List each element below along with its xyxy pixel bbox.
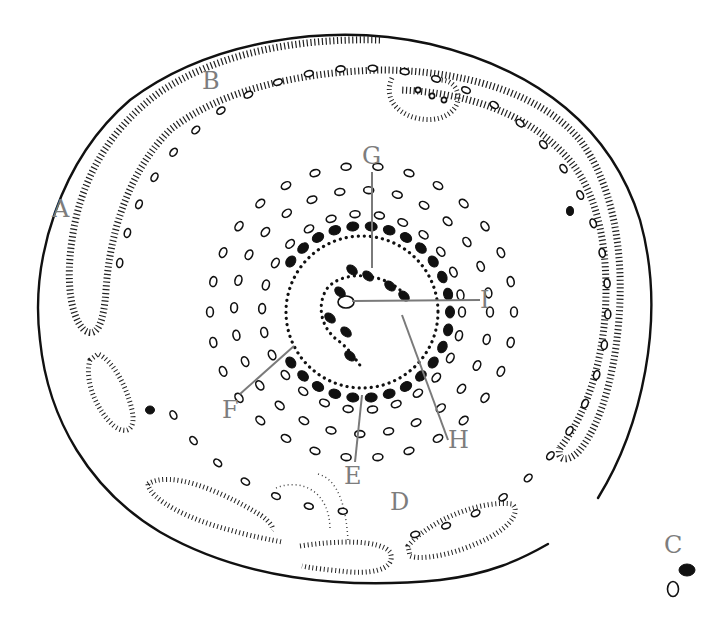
post-hole — [415, 87, 420, 92]
outlying-post-open — [668, 582, 679, 597]
post-hole — [325, 426, 336, 435]
post-hole — [234, 275, 243, 286]
post-hole — [271, 492, 282, 501]
post-hole — [240, 477, 251, 487]
post-hole — [309, 168, 321, 178]
post-hole-filled — [446, 306, 455, 318]
post-hole — [479, 220, 490, 232]
post-hole — [218, 365, 228, 377]
post-hole — [240, 356, 250, 368]
post-hole — [123, 228, 131, 238]
post-hole — [498, 492, 509, 502]
post-hole — [254, 198, 266, 210]
label-a: A — [51, 195, 70, 223]
post-hole — [260, 327, 269, 338]
filled-post — [567, 207, 574, 216]
post-hole — [461, 85, 472, 94]
post-hole — [432, 433, 444, 444]
post-hole-filled — [365, 392, 378, 402]
post-hole — [244, 249, 255, 261]
post-hole — [580, 398, 589, 409]
label-f: F — [222, 396, 239, 424]
spiral-posts — [323, 263, 411, 363]
post-hole-filled — [382, 388, 396, 400]
post-hole — [243, 90, 254, 99]
post-hole — [374, 211, 385, 219]
post-hole — [336, 66, 345, 73]
post-hole — [168, 147, 178, 158]
lens-feature-left — [88, 354, 133, 430]
post-hole — [368, 65, 377, 71]
post-hole — [496, 247, 506, 259]
post-hole — [169, 410, 179, 421]
post-hole-filled — [413, 241, 428, 256]
post-hole — [280, 433, 292, 444]
post-hole — [479, 392, 490, 404]
post-hole — [575, 190, 584, 201]
post-hole — [442, 215, 454, 227]
post-hole — [445, 352, 456, 364]
post-hole — [254, 415, 266, 427]
post-hole — [601, 340, 608, 350]
post-hole — [558, 163, 568, 174]
post-hole — [338, 508, 347, 515]
post-hole-filled — [296, 369, 311, 384]
post-hole — [456, 383, 468, 395]
post-hole — [367, 406, 378, 414]
label-d: D — [390, 488, 409, 516]
post-hole — [261, 279, 270, 290]
post-hole — [461, 236, 472, 248]
post-hole-filled — [328, 224, 342, 236]
post-hole — [410, 417, 422, 427]
post-hole-filled — [284, 355, 298, 370]
post-hole — [435, 246, 447, 258]
post-hole — [273, 78, 284, 87]
post-hole — [319, 398, 331, 408]
post-hole — [373, 453, 384, 461]
post-hole — [470, 509, 481, 518]
post-hole — [281, 208, 293, 219]
post-hole — [496, 365, 506, 377]
label-i: I — [480, 286, 489, 314]
post-hole — [429, 93, 434, 98]
lens-feature-bottom-left — [148, 479, 282, 542]
post-hole-filled — [339, 325, 353, 339]
post-hole — [341, 163, 352, 171]
post-hole-filled — [328, 388, 342, 400]
post-hole — [209, 276, 218, 287]
post-hole — [297, 386, 309, 397]
central-post-i — [338, 296, 354, 308]
post-hole-filled — [382, 224, 396, 236]
leader-h — [402, 315, 448, 440]
post-hole — [456, 289, 464, 300]
outlying-post-filled — [679, 564, 695, 576]
post-hole — [431, 75, 441, 83]
leader-f — [240, 346, 294, 394]
post-hole — [267, 349, 277, 361]
label-c: C — [664, 531, 682, 559]
post-hole — [212, 458, 223, 468]
post-hole — [454, 330, 463, 341]
post-hole — [403, 446, 415, 456]
post-hole — [270, 257, 281, 269]
post-hole-filled — [426, 254, 440, 269]
post-hole — [343, 405, 354, 413]
post-hole — [482, 334, 491, 345]
post-hole — [458, 415, 470, 427]
post-hole — [215, 106, 226, 116]
post-hole — [188, 435, 198, 446]
post-hole — [280, 369, 292, 381]
post-hole — [418, 200, 430, 211]
ditch-a — [69, 40, 620, 459]
post-hole — [403, 168, 415, 178]
post-hole — [448, 266, 458, 278]
leader-i — [352, 300, 480, 301]
post-hole — [410, 530, 420, 538]
post-hole — [233, 220, 244, 232]
leader-e — [355, 395, 362, 462]
post-hole-filled — [311, 380, 326, 394]
post-hole-filled — [442, 287, 453, 301]
post-hole — [511, 307, 518, 317]
post-hole — [260, 226, 272, 238]
post-hole — [274, 400, 286, 412]
